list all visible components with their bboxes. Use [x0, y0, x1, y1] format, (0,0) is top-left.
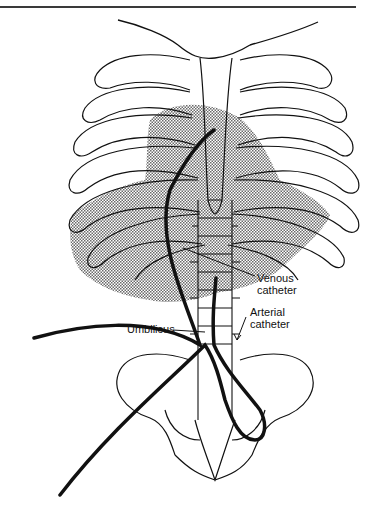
anatomy-illustration	[0, 0, 370, 527]
arterial-label-line1: Arterial	[250, 306, 290, 318]
arterial-catheter-line	[60, 278, 265, 495]
pelvis	[117, 354, 313, 480]
arterial-label-line2: catheter	[250, 318, 290, 330]
arterial-leader	[237, 317, 246, 340]
umbilicus-label: Umbilicus	[127, 323, 175, 335]
arterial-catheter-label: Arterial catheter	[250, 306, 290, 330]
umbilicus-leader	[173, 330, 205, 332]
clavicles	[118, 20, 318, 58]
venous-label-line2: catheter	[257, 284, 297, 296]
venous-label-line1: Venous	[257, 272, 297, 284]
venous-catheter-label: Venous catheter	[257, 272, 297, 296]
